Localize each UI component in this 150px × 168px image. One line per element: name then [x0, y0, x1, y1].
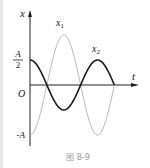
x-axis-label: t [132, 70, 136, 82]
y-axis-label: x [19, 7, 25, 19]
figure-caption: 图 8-9 [66, 153, 90, 162]
tick-label-half-A-numerator: A [14, 49, 21, 59]
series-x1-label-sub: 1 [60, 22, 64, 30]
series-x2-label: x2 [91, 43, 100, 56]
series-x1-label: x1 [55, 17, 64, 30]
series-x2-label-sub: 2 [96, 48, 100, 56]
origin-label: O [18, 88, 25, 99]
y-axis-arrow [28, 10, 32, 17]
tick-label-half-A-denominator: 2 [16, 60, 21, 70]
figure-frame: x t O A 2 -A x1 x2 图 8-9 [0, 0, 150, 168]
chart-svg: x t O A 2 -A x1 x2 图 8-9 [0, 0, 150, 168]
x-axis-arrow [131, 83, 139, 87]
tick-label-neg-A: -A [17, 130, 26, 140]
